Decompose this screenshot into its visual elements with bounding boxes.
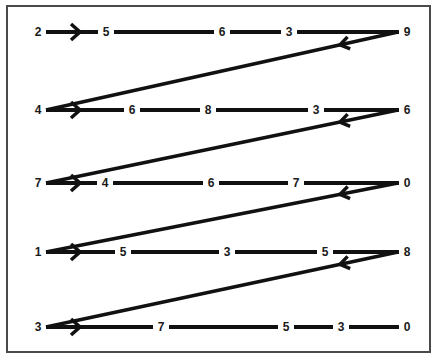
- sequence-number: 6: [218, 26, 227, 38]
- sequence-number: 4: [34, 104, 43, 116]
- sequence-number: 5: [282, 321, 291, 333]
- diagonal-return-line: [46, 32, 398, 110]
- sequence-number: 9: [403, 26, 412, 38]
- sequence-number: 7: [157, 321, 166, 333]
- sequence-number: 6: [403, 104, 412, 116]
- sequence-number: 8: [403, 246, 412, 258]
- sequence-number: 0: [403, 177, 412, 189]
- sequence-number: 1: [34, 246, 43, 258]
- sequence-number: 3: [34, 321, 43, 333]
- sequence-number: 6: [128, 104, 137, 116]
- sequence-number: 5: [321, 246, 330, 258]
- sequence-number: 8: [204, 104, 213, 116]
- sequence-number: 4: [101, 177, 110, 189]
- sequence-number: 3: [337, 321, 346, 333]
- diagonal-return-line: [46, 252, 398, 327]
- sequence-number: 5: [119, 246, 128, 258]
- diagonal-return-line: [46, 110, 398, 183]
- sequence-number: 3: [285, 26, 294, 38]
- diagonal-return-line: [46, 183, 398, 252]
- zigzag-lines: [0, 0, 439, 360]
- sequence-number: 7: [292, 177, 301, 189]
- sequence-number: 6: [207, 177, 216, 189]
- sequence-number: 5: [102, 26, 111, 38]
- sequence-number: 0: [403, 321, 412, 333]
- sequence-number: 3: [223, 246, 232, 258]
- sequence-number: 2: [34, 26, 43, 38]
- sequence-number: 7: [34, 177, 43, 189]
- sequence-number: 3: [312, 104, 321, 116]
